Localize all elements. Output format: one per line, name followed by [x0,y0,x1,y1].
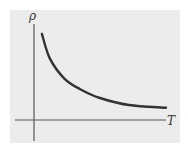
x-axis-label: T [167,115,175,127]
y-axis-label: ρ [29,10,36,22]
data-curve [42,34,166,108]
